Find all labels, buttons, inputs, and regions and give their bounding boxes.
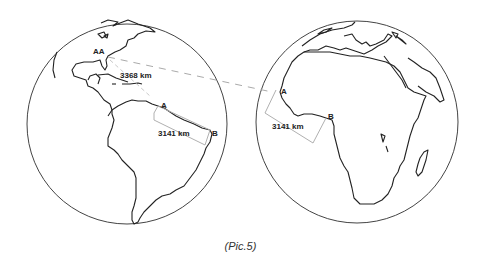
label-point-aa: AA <box>93 47 105 56</box>
label-right-point-b: B <box>328 112 334 121</box>
label-distance-aa: 3368 km <box>120 71 152 80</box>
label-right-point-a: A <box>281 87 287 96</box>
americas-coastline <box>53 20 212 224</box>
africa-europe-coastline <box>280 22 444 204</box>
label-left-point-a: A <box>161 101 167 110</box>
figure-caption: (Pic.5) <box>0 240 481 252</box>
label-left-distance-ab: 3141 km <box>158 129 190 138</box>
label-left-point-b: B <box>212 129 218 138</box>
right-measurement-bracket <box>265 90 326 143</box>
globes-diagram <box>0 0 481 268</box>
left-measurement-bracket <box>154 106 210 145</box>
label-right-distance-ab: 3141 km <box>272 122 304 131</box>
